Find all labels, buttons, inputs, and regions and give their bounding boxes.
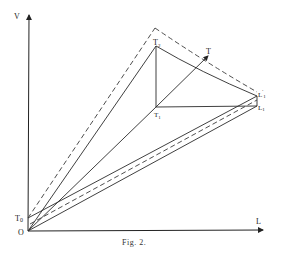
point-t2-label: T2 xyxy=(153,38,161,48)
figure-diagram: V L O T0 T2 T1 T L'1 L1 Fig. 2. xyxy=(0,0,282,254)
solid-lines xyxy=(28,46,257,231)
dashed-lines xyxy=(28,28,257,224)
figure-caption: Fig. 2. xyxy=(122,238,146,247)
l-axis xyxy=(28,230,263,231)
v-axis-label: V xyxy=(14,12,20,21)
origin-label: O xyxy=(18,228,24,237)
t-direction-arrow xyxy=(156,56,208,107)
point-t-label: T xyxy=(206,47,211,56)
point-t0-label: T0 xyxy=(15,214,23,223)
point-l1-label: L1 xyxy=(258,104,265,112)
v-axis xyxy=(28,15,29,231)
point-l-prime-label: L'1 xyxy=(258,89,266,99)
point-t1-label: T1 xyxy=(154,111,161,120)
l-axis-label: L xyxy=(256,217,261,226)
